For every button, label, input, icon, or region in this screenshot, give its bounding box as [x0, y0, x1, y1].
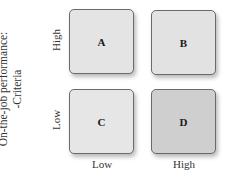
y-tick-high: High — [50, 20, 62, 60]
quadrant-b: B — [151, 10, 216, 75]
quadrant-b-label: B — [180, 37, 187, 49]
quadrant-d-label: D — [180, 116, 188, 128]
quadrant-a-label: A — [98, 36, 106, 48]
quadrant-a: A — [69, 9, 134, 74]
quadrant-d: D — [151, 89, 216, 154]
y-axis-title: On-the-job performance: -Criteria — [0, 14, 30, 164]
y-axis-title-line1: On-the-job performance: — [0, 14, 10, 164]
quadrant-c-label: C — [98, 116, 106, 128]
x-tick-low: Low — [69, 158, 135, 170]
y-tick-low: Low — [50, 100, 62, 140]
quadrant-c: C — [69, 89, 134, 154]
x-tick-high: High — [151, 158, 217, 170]
y-axis-title-line2: -Criteria — [10, 14, 24, 164]
